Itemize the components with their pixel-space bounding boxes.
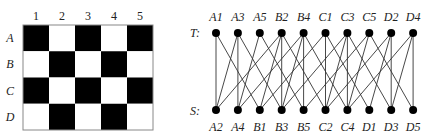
graph-edge (304, 33, 370, 110)
top-node (278, 29, 286, 37)
graph-edge (282, 33, 348, 110)
top-node (256, 29, 264, 37)
top-node-label: C3 (340, 10, 354, 24)
top-node (343, 29, 351, 37)
bottom-node-label: B3 (275, 120, 288, 134)
row-label: A (5, 31, 14, 45)
column-label: 1 (33, 9, 39, 23)
top-node (212, 29, 220, 37)
top-node-label: A1 (208, 10, 222, 24)
bottom-node-label: D5 (405, 120, 421, 134)
bottom-node-label: D1 (361, 120, 377, 134)
grid-cell (127, 104, 153, 130)
bottom-node (300, 106, 308, 114)
grid-cell (101, 25, 127, 51)
top-node-label: B2 (275, 10, 288, 24)
top-node-label: A3 (230, 10, 244, 24)
grid-cell (101, 78, 127, 104)
bottom-node-label: A2 (208, 120, 222, 134)
row-label: B (6, 57, 14, 71)
graph-edge (391, 33, 413, 110)
top-node-label: A5 (252, 10, 266, 24)
bottom-node (365, 106, 373, 114)
graph-edges (216, 33, 413, 110)
top-node (234, 29, 242, 37)
top-node (300, 29, 308, 37)
bottom-node-label: A4 (230, 120, 244, 134)
bottom-node-label: C4 (340, 120, 354, 134)
grid-cell (49, 51, 75, 77)
top-set-label: T: (190, 26, 200, 40)
bottom-node (234, 106, 242, 114)
column-label: 2 (59, 9, 65, 23)
grid-cell (49, 78, 75, 104)
row-label: C (6, 84, 15, 98)
grid-cell (75, 104, 101, 130)
grid-cell (49, 104, 75, 130)
grid-cell (101, 51, 127, 77)
bottom-node (278, 106, 286, 114)
graph-edge (347, 33, 413, 110)
top-node (409, 29, 417, 37)
top-node-label: D4 (405, 10, 421, 24)
grid-cell (75, 51, 101, 77)
top-node (322, 29, 330, 37)
grid-cell (49, 25, 75, 51)
top-node-label: B4 (297, 10, 310, 24)
grid-cell (127, 78, 153, 104)
column-label: 3 (85, 9, 91, 23)
graph-edge (238, 33, 304, 110)
bottom-node (343, 106, 351, 114)
grid-cell (127, 51, 153, 77)
bottom-node (409, 106, 417, 114)
grid-cell (23, 78, 49, 104)
checkerboard-grid: 12345ABCD (5, 9, 153, 130)
bottom-node (322, 106, 330, 114)
bottom-set-label: S: (190, 104, 200, 118)
bottom-node-label: B5 (297, 120, 310, 134)
bottom-node (387, 106, 395, 114)
grid-cell (23, 25, 49, 51)
column-label: 5 (137, 9, 143, 23)
grid-cell (127, 25, 153, 51)
grid-cell (101, 104, 127, 130)
grid-cell (23, 104, 49, 130)
top-node (387, 29, 395, 37)
grid-cell (75, 25, 101, 51)
top-node-label: D2 (383, 10, 399, 24)
bottom-node (256, 106, 264, 114)
top-node (365, 29, 373, 37)
graph-edge (216, 33, 238, 110)
grid-cell (23, 51, 49, 77)
graph-edge (238, 33, 282, 110)
top-node-label: C5 (362, 10, 376, 24)
bottom-node (212, 106, 220, 114)
row-label: D (5, 110, 15, 124)
grid-cell (75, 78, 101, 104)
graph-edge (216, 33, 282, 110)
top-node-label: C1 (318, 10, 332, 24)
bipartite-diagram: 12345ABCD A1A3A5B2B4C1C3C5D2D4A2A4B1B3B5… (0, 0, 427, 139)
graph-edge (326, 33, 392, 110)
graph-edge (260, 33, 326, 110)
bottom-node-label: D3 (383, 120, 399, 134)
column-label: 4 (111, 9, 117, 23)
bottom-node-label: B1 (253, 120, 266, 134)
graph-edge (347, 33, 391, 110)
bottom-node-label: C2 (318, 120, 332, 134)
